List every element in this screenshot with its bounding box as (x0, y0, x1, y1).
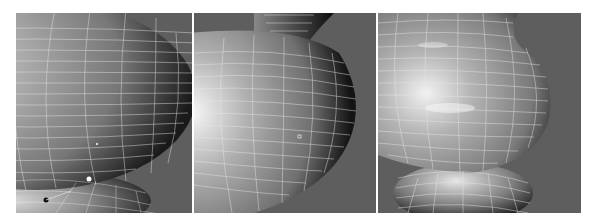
viewport-panel-1[interactable] (16, 13, 192, 213)
mesh-render-1 (16, 13, 192, 213)
mesh-render-3 (378, 13, 581, 213)
viewport-panel-3[interactable] (378, 13, 581, 213)
viewport-panel-2[interactable] (194, 13, 376, 213)
mesh-render-2 (194, 13, 376, 213)
selected-vertex[interactable] (87, 177, 92, 182)
